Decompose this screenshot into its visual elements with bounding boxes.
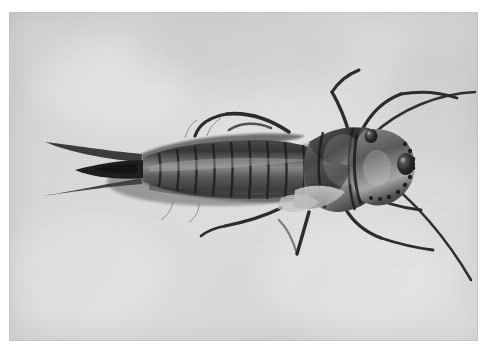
head [350,129,415,206]
insect-nymph-photograph [9,12,478,341]
page-root [0,0,491,358]
insect-nymph-specimen [9,12,478,341]
compound-eye [397,153,415,175]
compound-eye [365,129,378,143]
